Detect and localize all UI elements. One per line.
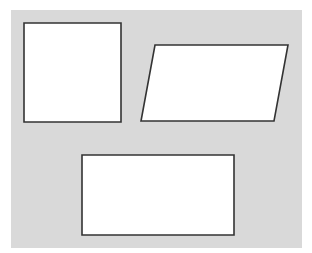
parallelogram-shape xyxy=(141,45,288,121)
rectangle-shape xyxy=(82,155,234,235)
square-shape xyxy=(24,23,121,122)
shapes-canvas xyxy=(0,0,312,253)
